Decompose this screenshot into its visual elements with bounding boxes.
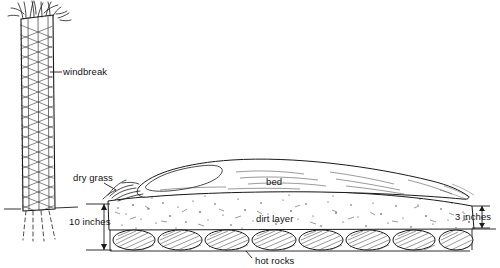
label-hot-rocks: hot rocks xyxy=(255,255,294,266)
label-bed: bed xyxy=(266,176,282,187)
diagram-canvas: windbreak dry grass bed dirt layer hot r… xyxy=(0,0,500,268)
label-3-inches: 3 inches xyxy=(455,211,491,222)
label-dirt-layer: dirt layer xyxy=(256,213,293,224)
shelter-cross-section-drawing xyxy=(0,0,500,268)
hot-rocks-row xyxy=(110,229,473,251)
label-10-inches: 10 inches xyxy=(69,216,111,227)
label-windbreak: windbreak xyxy=(63,66,107,77)
label-dry-grass: dry grass xyxy=(73,172,113,183)
hot-rocks-leader-line xyxy=(246,251,252,258)
dirt-layer xyxy=(108,191,474,230)
dry-grass-leader-line xyxy=(104,183,116,190)
windbreak-panel xyxy=(4,1,78,241)
